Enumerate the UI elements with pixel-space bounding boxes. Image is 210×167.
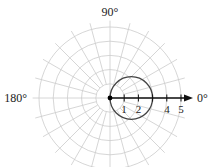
grid-spoke	[117, 31, 149, 86]
grid-spoke	[55, 108, 100, 153]
angle-label-180: 180°	[4, 91, 27, 105]
pole-point	[108, 96, 113, 101]
grid-spoke	[124, 78, 185, 94]
grid-spoke	[35, 102, 96, 118]
arrow-head-icon	[184, 95, 193, 102]
angle-label-0: 0°	[197, 91, 208, 105]
polar-plot: 90° 180° 0° 1 2 4 5	[0, 0, 210, 167]
radial-tick-label-4: 4	[164, 103, 170, 115]
radial-tick-label-5: 5	[178, 103, 184, 115]
grid-spoke	[35, 78, 96, 94]
grid-spoke	[55, 43, 100, 88]
polar-axis	[108, 95, 193, 102]
grid-spoke	[43, 105, 98, 137]
radial-tick-label-2: 2	[136, 103, 142, 115]
grid-spoke	[114, 23, 130, 84]
radial-tick-label-1: 1	[121, 103, 127, 115]
grid-spoke	[117, 110, 149, 165]
grid-spoke	[71, 110, 103, 165]
grid-spoke	[43, 59, 98, 91]
grid-spoke	[120, 43, 165, 88]
angle-label-90: 90°	[102, 5, 119, 19]
grid-spoke	[71, 31, 103, 86]
grid-spoke	[90, 23, 106, 84]
grid-spoke	[124, 102, 185, 118]
